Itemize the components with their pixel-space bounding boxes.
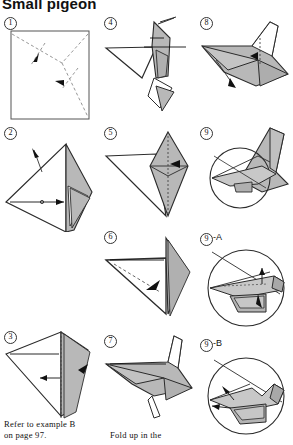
step-1-diagram bbox=[4, 16, 96, 122]
fold-arrow-icon bbox=[32, 148, 39, 158]
step-panel-6: 6 bbox=[104, 230, 196, 330]
step-panel-8: 8 bbox=[200, 16, 292, 122]
step-8-diagram bbox=[200, 16, 292, 122]
step-panel-3: 3 bbox=[4, 330, 96, 422]
page-title: Small pigeon bbox=[2, 0, 97, 12]
step-panel-2: 2 bbox=[4, 126, 96, 232]
fold-arrow-icon bbox=[212, 404, 220, 410]
step-9-diagram bbox=[200, 126, 292, 226]
step-7-diagram bbox=[104, 334, 196, 422]
step-panel-9a: 9-A bbox=[200, 232, 292, 332]
caption-middle: Fold up in the bbox=[110, 430, 200, 441]
step-panel-9: 9 bbox=[200, 126, 292, 226]
step-5-diagram bbox=[104, 126, 196, 226]
step-panel-9b: 9-B bbox=[200, 338, 292, 440]
step-3-diagram bbox=[4, 330, 96, 422]
origami-instruction-sheet: Small pigeon 1 2 bbox=[0, 0, 293, 445]
step-9b-diagram bbox=[200, 338, 292, 440]
step-panel-1: 1 bbox=[4, 16, 96, 122]
step-2-diagram bbox=[4, 126, 96, 232]
step-panel-4: 4 bbox=[104, 16, 196, 122]
step-9a-diagram bbox=[200, 232, 292, 332]
fold-arrow-icon bbox=[259, 268, 265, 275]
caption-left: Refer to example B on page 97. bbox=[4, 419, 99, 440]
step-6-diagram bbox=[104, 230, 196, 330]
step-panel-5: 5 bbox=[104, 126, 196, 226]
step-4-diagram bbox=[104, 16, 196, 122]
step-panel-7: 7 bbox=[104, 334, 196, 422]
